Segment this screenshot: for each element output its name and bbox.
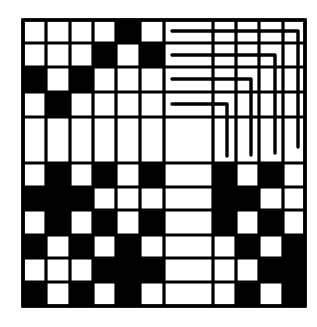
filled-cell [283, 282, 305, 306]
empty-cell [140, 20, 164, 43]
empty-cell [70, 117, 93, 163]
empty-cell [46, 20, 70, 43]
empty-cell [283, 92, 305, 117]
filled-cell [213, 210, 236, 235]
empty-cell [46, 258, 70, 282]
empty-cell [236, 210, 259, 235]
empty-cell [140, 235, 164, 258]
filled-cell [236, 235, 259, 258]
filled-cell [70, 187, 93, 210]
filled-cell [23, 187, 46, 210]
filled-cell [93, 43, 116, 67]
empty-cell [116, 43, 140, 67]
filled-cell [236, 187, 259, 210]
empty-cell [213, 258, 236, 282]
empty-cell [93, 235, 116, 258]
filled-cell [259, 258, 283, 282]
empty-cell [93, 67, 116, 92]
empty-cell [164, 187, 213, 210]
empty-cell [116, 187, 140, 210]
empty-cell [93, 187, 116, 210]
empty-cell [70, 43, 93, 67]
empty-cell [23, 210, 46, 235]
empty-cell [93, 20, 116, 43]
filled-cell [116, 282, 140, 306]
empty-cell [93, 282, 116, 306]
empty-cell [46, 117, 70, 163]
filled-cell [23, 282, 46, 306]
weave-draft-figure [0, 0, 317, 327]
filled-cell [259, 210, 283, 235]
empty-cell [70, 258, 93, 282]
empty-cell [140, 117, 164, 163]
empty-cell [70, 92, 93, 117]
empty-cell [164, 210, 213, 235]
empty-cell [164, 117, 213, 163]
filled-cell [116, 235, 140, 258]
empty-cell [283, 67, 305, 92]
empty-cell [213, 117, 236, 163]
filled-cell [140, 210, 164, 235]
empty-cell [23, 20, 46, 43]
empty-cell [140, 282, 164, 306]
filled-cell [93, 210, 116, 235]
empty-cell [283, 187, 305, 210]
filled-cell [213, 187, 236, 210]
empty-cell [259, 67, 283, 92]
empty-cell [23, 163, 46, 187]
empty-cell [213, 282, 236, 306]
filled-cell [259, 163, 283, 187]
filled-cell [23, 235, 46, 258]
filled-cell [46, 163, 70, 187]
empty-cell [93, 92, 116, 117]
empty-cell [116, 92, 140, 117]
empty-cell [283, 43, 305, 67]
empty-cell [259, 92, 283, 117]
empty-cell [46, 67, 70, 92]
empty-cell [164, 258, 213, 282]
weave-draft-grid [0, 0, 317, 327]
empty-cell [283, 163, 305, 187]
empty-cell [23, 92, 46, 117]
filled-cell [140, 163, 164, 187]
filled-cell [70, 235, 93, 258]
empty-cell [213, 235, 236, 258]
empty-cell [70, 163, 93, 187]
filled-cell [140, 43, 164, 67]
empty-cell [46, 43, 70, 67]
empty-cell [259, 235, 283, 258]
filled-cell [93, 258, 116, 282]
empty-cell [140, 67, 164, 92]
empty-cell [164, 282, 213, 306]
empty-cell [116, 210, 140, 235]
filled-cell [236, 282, 259, 306]
empty-cell [283, 117, 305, 163]
empty-cell [259, 187, 283, 210]
empty-cell [236, 92, 259, 117]
empty-cell [236, 117, 259, 163]
empty-cell [236, 163, 259, 187]
filled-cell [116, 20, 140, 43]
empty-cell [140, 92, 164, 117]
filled-cell [46, 210, 70, 235]
empty-cell [23, 258, 46, 282]
empty-cell [23, 117, 46, 163]
empty-cell [283, 210, 305, 235]
empty-cell [116, 67, 140, 92]
empty-cell [236, 258, 259, 282]
empty-cell [46, 282, 70, 306]
empty-cell [140, 187, 164, 210]
filled-cell [46, 92, 70, 117]
filled-cell [70, 67, 93, 92]
empty-cell [259, 282, 283, 306]
filled-cell [283, 258, 305, 282]
filled-cell [213, 163, 236, 187]
filled-cell [23, 67, 46, 92]
empty-cell [116, 117, 140, 163]
filled-cell [46, 187, 70, 210]
empty-cell [70, 210, 93, 235]
filled-cell [140, 258, 164, 282]
empty-cell [70, 20, 93, 43]
empty-cell [46, 235, 70, 258]
filled-cell [70, 282, 93, 306]
